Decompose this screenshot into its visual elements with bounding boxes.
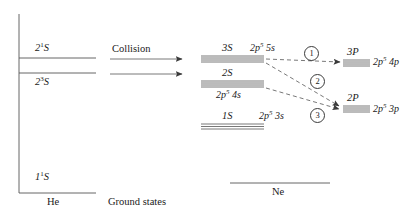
transition-2-marker: 2 <box>310 74 325 89</box>
transition-1-arrow <box>266 59 340 62</box>
collision-label: Collision <box>112 44 151 55</box>
transition-1-marker: 1 <box>304 46 319 61</box>
ne-group-2P-lines <box>343 106 370 112</box>
ne-group-1S-lines <box>201 124 264 129</box>
transition-3-arrow <box>266 88 339 109</box>
ne-group-3P-label: 3P <box>347 47 359 58</box>
diagram-lines <box>0 0 411 218</box>
ne-group-3P-lines <box>343 60 370 66</box>
he-level-2-1-S-label: 21S <box>35 43 49 54</box>
ne-group-2S-label: 2S <box>222 68 233 79</box>
ne-group-2S-config: 2p5 4s <box>216 90 241 100</box>
ne-group-1S-label: 1S <box>222 111 233 122</box>
ne-group-2S-lines <box>201 81 264 87</box>
ne-group-3S-config: 2p5 5s <box>250 43 275 53</box>
he-level-2-3-S-label: 23S <box>35 77 49 88</box>
neon-species-label: Ne <box>272 187 284 198</box>
helium-species-label: He <box>47 197 59 208</box>
ne-group-3S-lines <box>201 56 264 62</box>
transition-3-marker: 3 <box>310 108 325 123</box>
energy-level-diagram: 21S 23S 11S He Collision Ground states 3… <box>0 0 411 218</box>
ne-group-3S-label: 3S <box>222 43 233 54</box>
ne-group-2P-label: 2P <box>347 93 359 104</box>
ne-group-3P-config: 2p5 4p <box>373 57 399 67</box>
transition-2-arrow <box>266 63 339 106</box>
ne-group-2P-config: 2p5 3p <box>373 104 399 114</box>
ground-states-label: Ground states <box>108 197 166 208</box>
he-level-1-1-S-label: 11S <box>35 172 49 183</box>
ne-group-1S-config: 2p5 3s <box>259 111 284 121</box>
